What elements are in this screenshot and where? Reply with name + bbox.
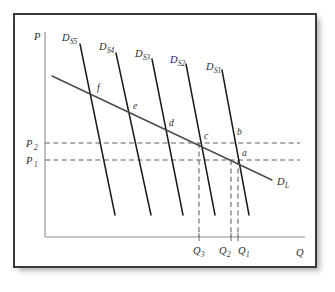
curve-label-dl-base: D: [276, 176, 285, 187]
price-label-p2-sub: 2: [34, 144, 38, 152]
figure-page: P Q P 2 P 1 Q 3 Q 2 Q 1: [0, 0, 335, 292]
curve-label-ds2-base: D: [169, 54, 178, 65]
point-label-e: e: [133, 101, 137, 111]
quantity-label-q1-base: Q: [238, 245, 246, 256]
curve-label-ds4-base: D: [98, 41, 107, 52]
point-label-c: c: [204, 131, 209, 141]
curve-label-ds3: D S3: [134, 48, 151, 62]
curve-ds2: [186, 64, 215, 215]
point-label-f: f: [97, 83, 101, 93]
intersection-labels-group: f e d c b a: [97, 83, 247, 158]
curve-label-dl-sub: L: [284, 182, 289, 190]
quantity-label-q1-sub: 1: [246, 251, 250, 259]
price-label-p1: P 1: [25, 155, 38, 169]
curve-ds4: [116, 53, 151, 215]
curve-label-ds3-sub: S3: [143, 54, 151, 62]
quantity-label-q3-base: Q: [193, 245, 201, 256]
price-label-p2: P 2: [25, 138, 38, 152]
curve-label-ds3-base: D: [134, 48, 143, 59]
quantity-label-q2: Q 2: [219, 245, 231, 259]
curve-label-ds2: D S2: [169, 54, 186, 68]
quantity-label-q1: Q 1: [238, 245, 250, 259]
quantity-label-q2-sub: 2: [227, 251, 231, 259]
quantity-guidelines-group: [199, 143, 238, 237]
point-label-b: b: [237, 127, 242, 137]
curve-label-ds5-base: D: [61, 32, 70, 43]
curve-label-ds1: D S1: [205, 61, 221, 75]
point-label-d: d: [169, 118, 174, 128]
price-labels-group: P 2 P 1: [25, 138, 38, 169]
curve-label-ds2-sub: S2: [178, 60, 186, 68]
price-label-p1-sub: 1: [34, 161, 38, 169]
curve-label-ds1-sub: S1: [214, 67, 221, 75]
curve-label-ds4: D S4: [98, 41, 115, 55]
price-guidelines-group: [45, 143, 300, 160]
quantity-label-q3: Q 3: [193, 245, 205, 259]
quantity-label-q3-sub: 3: [200, 251, 205, 259]
curve-label-ds5-sub: S5: [70, 38, 78, 46]
quantity-labels-group: Q 3 Q 2 Q 1: [193, 245, 250, 259]
curve-label-ds5: D S5: [61, 32, 78, 46]
curve-label-ds1-base: D: [205, 61, 214, 72]
y-axis-label: P: [33, 31, 41, 42]
curve-ds5: [80, 44, 115, 215]
point-label-a: a: [242, 148, 247, 158]
curve-label-ds4-sub: S4: [107, 47, 115, 55]
demand-curve-label-group: D L: [276, 176, 289, 190]
price-label-p2-base: P: [25, 138, 33, 149]
curve-ds3: [152, 59, 183, 215]
price-label-p1-base: P: [25, 155, 33, 166]
quantity-label-q2-base: Q: [219, 245, 227, 256]
x-axis-label: Q: [296, 247, 304, 258]
supply-demand-chart: P Q P 2 P 1 Q 3 Q 2 Q 1: [0, 0, 335, 292]
